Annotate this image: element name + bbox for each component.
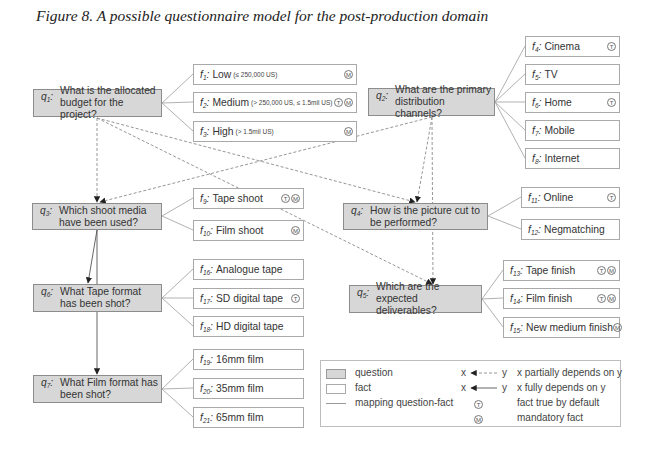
- question-text-line: be performed?: [370, 217, 480, 229]
- fact-id: f6:: [532, 97, 541, 109]
- fact-f11: f11: Online T: [521, 187, 620, 208]
- fact-text: Film shoot: [216, 225, 264, 236]
- true-default-badge-icon: T: [607, 98, 616, 107]
- fact-text: Home: [544, 97, 571, 108]
- fact-f18: f18: HD digital tape: [193, 316, 304, 337]
- question-id: q7:: [41, 376, 60, 392]
- legend: question fact mapping question-fact x y …: [320, 360, 621, 427]
- mandatory-badge-icon: M: [344, 127, 353, 136]
- mandatory-badge-icon: M: [607, 294, 616, 303]
- question-text-line: Which shoot media: [59, 205, 147, 217]
- question-q1: q1: What is the allocatedbudget for the …: [33, 89, 162, 117]
- fact-text: Internet: [544, 153, 579, 164]
- fact-f9: f9: Tape shoot TM: [193, 188, 304, 209]
- fact-id: f2:: [200, 97, 209, 109]
- question-id: q1:: [41, 90, 60, 106]
- question-text-line: have been used?: [59, 217, 147, 229]
- question-text-line: What is the allocated: [60, 85, 161, 97]
- fact-text: Online: [544, 192, 574, 203]
- fact-f4: f4: Cinema T: [525, 36, 620, 57]
- fact-text: 65mm film: [216, 412, 263, 423]
- legend-full-label: x fully depends on y: [517, 382, 605, 393]
- question-text-line: What Film format has: [60, 377, 158, 389]
- fact-id: f9:: [200, 193, 209, 205]
- legend-x: x: [461, 367, 466, 378]
- fact-id: f13:: [510, 265, 523, 277]
- legend-true-default-label: fact true by default: [517, 397, 599, 408]
- fact-text: Tape finish: [526, 265, 575, 276]
- fact-id: f3:: [200, 126, 209, 138]
- fact-f17: f17: SD digital tape T: [193, 288, 304, 309]
- question-text-line: distribution channels?: [395, 96, 494, 120]
- fact-text: Tape shoot: [212, 193, 262, 204]
- fact-text: SD digital tape: [216, 293, 283, 304]
- mandatory-badge-icon: M: [291, 194, 300, 203]
- fact-f7: f7: Mobile: [525, 120, 620, 141]
- mandatory-badge-icon: M: [474, 415, 483, 424]
- question-text-line: What are the primary: [395, 84, 494, 96]
- fact-id: f20:: [200, 383, 213, 395]
- fact-text: 16mm film: [216, 354, 263, 365]
- true-default-badge-icon: T: [334, 98, 343, 107]
- fact-f3: f3: High (> 1.5mil US) M: [193, 121, 357, 142]
- true-default-badge-icon: T: [281, 194, 290, 203]
- true-default-badge-icon: T: [597, 266, 606, 275]
- fact-text: Analogue tape: [216, 264, 282, 275]
- fact-f2: f2: Medium (> 250,000 US, ≤ 1.5mil US) T…: [193, 92, 357, 113]
- fact-f6: f6: Home T: [525, 92, 620, 113]
- fact-f15: f15: New medium finish M: [503, 317, 620, 338]
- true-default-badge-icon: T: [607, 193, 616, 202]
- legend-mapping-line: [326, 403, 346, 404]
- fact-note: (> 1.5mil US): [236, 128, 274, 135]
- question-q2: q2: What are the primarydistribution cha…: [368, 88, 495, 116]
- mandatory-badge-icon: M: [344, 70, 353, 79]
- question-q4: q4: How is the picture cut tobe performe…: [343, 203, 488, 230]
- fact-text: Negmatching: [544, 224, 605, 235]
- legend-x: x: [461, 382, 466, 393]
- fact-id: f18:: [200, 321, 213, 333]
- legend-fact-label: fact: [355, 382, 371, 393]
- fact-f5: f5: TV: [525, 64, 620, 85]
- question-id: q3:: [40, 204, 59, 220]
- legend-y: y: [502, 382, 507, 393]
- fact-id: f8:: [532, 153, 541, 165]
- fact-text: Low: [212, 69, 231, 80]
- true-default-badge-icon: T: [607, 42, 616, 51]
- fact-id: f11:: [528, 192, 541, 204]
- fact-id: f4:: [532, 41, 541, 53]
- fact-f20: f20: 35mm film: [193, 378, 304, 399]
- fact-f12: f12: Negmatching: [521, 219, 620, 240]
- fact-f14: f14: Film finish TM: [503, 288, 620, 309]
- question-q7: q7: What Film format hasbeen shot?: [33, 375, 162, 403]
- fact-id: f7:: [532, 125, 541, 137]
- fact-id: f12:: [528, 224, 541, 236]
- question-id: q6:: [41, 285, 60, 301]
- fact-text: Mobile: [544, 125, 574, 136]
- fact-id: f19:: [200, 354, 213, 366]
- legend-question-label: question: [355, 367, 393, 378]
- mandatory-badge-icon: M: [607, 266, 616, 275]
- legend-fact-swatch: [326, 384, 346, 394]
- question-text-line: has been shot?: [60, 298, 141, 310]
- fact-text: 35mm film: [216, 383, 263, 394]
- fact-text: Film finish: [526, 293, 572, 304]
- fact-id: f17:: [200, 293, 213, 305]
- legend-y: y: [502, 367, 507, 378]
- true-default-badge-icon: T: [474, 400, 483, 409]
- fact-id: f21:: [200, 412, 213, 424]
- fact-text: Cinema: [544, 41, 579, 52]
- legend-question-swatch: [326, 369, 346, 379]
- fact-id: f1:: [200, 69, 209, 81]
- true-default-badge-icon: T: [597, 294, 606, 303]
- mandatory-badge-icon: M: [291, 226, 300, 235]
- true-default-badge-icon: T: [291, 294, 300, 303]
- fact-id: f5:: [532, 69, 541, 81]
- fact-text: HD digital tape: [216, 321, 284, 332]
- fact-f10: f10: Film shoot M: [193, 220, 304, 241]
- fact-f19: f19: 16mm film: [193, 349, 304, 370]
- legend-mapping-label: mapping question-fact: [355, 397, 453, 408]
- fact-f1: f1: Low (≤ 250,000 US) M: [193, 64, 357, 85]
- question-id: q2:: [376, 89, 395, 105]
- question-id: q5:: [357, 286, 376, 302]
- question-text-line: budget for the project?: [60, 97, 161, 121]
